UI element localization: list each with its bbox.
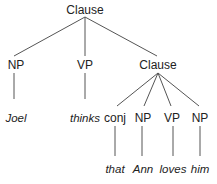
node-clause: Clause [139, 58, 177, 72]
leaf-ann: Ann [132, 163, 153, 175]
edge-root-np [14, 17, 85, 56]
node-np-3: NP [192, 111, 209, 125]
leaf-that: that [105, 163, 125, 175]
leaf-loves: loves [160, 163, 187, 175]
edge-clause-conj [117, 73, 158, 106]
edge-clause-np [144, 73, 158, 106]
leaf-joel: Joel [4, 112, 27, 124]
leaf-thinks: thinks [70, 112, 100, 124]
node-np: NP [8, 58, 25, 72]
syntax-tree: Clause NP VP Clause Joel thinks conj NP … [0, 0, 217, 184]
edge-root-clause [85, 17, 157, 56]
node-vp: VP [77, 58, 93, 72]
node-root-clause: Clause [66, 3, 104, 17]
leaf-him: him [191, 163, 210, 175]
node-vp-2: VP [164, 111, 180, 125]
node-conj: conj [104, 111, 126, 125]
node-np-2: NP [135, 111, 152, 125]
